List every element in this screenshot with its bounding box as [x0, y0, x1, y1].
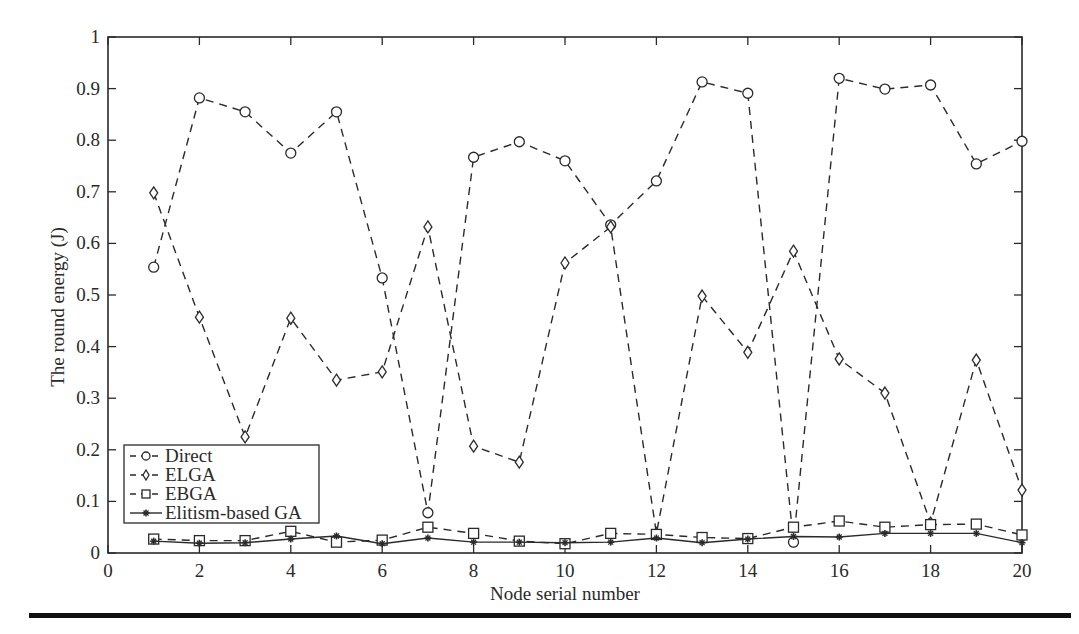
- legend: DirectELGAEBGAElitism-based GA: [124, 445, 319, 523]
- circle-marker-icon: [423, 508, 433, 518]
- y-tick-label: 1: [91, 26, 101, 47]
- star-marker-icon: [562, 539, 569, 546]
- star-marker-icon: [836, 534, 843, 541]
- star-marker-icon: [242, 539, 249, 546]
- diamond-marker-icon: [515, 456, 523, 468]
- square-marker-icon: [926, 520, 936, 530]
- circle-marker-icon: [514, 137, 524, 147]
- figure-bottom-rule: [29, 613, 1071, 618]
- x-tick-label: 0: [103, 560, 113, 581]
- star-marker-icon: [927, 530, 934, 537]
- circle-marker-icon: [377, 273, 387, 283]
- diamond-marker-icon: [378, 366, 386, 378]
- y-axis-label: The round energy (J): [47, 227, 69, 387]
- y-tick-label: 0.4: [76, 336, 100, 357]
- x-tick-label: 20: [1013, 560, 1032, 581]
- circle-marker-icon: [149, 262, 159, 272]
- diamond-marker-icon: [424, 221, 432, 233]
- x-tick-label: 12: [647, 560, 666, 581]
- x-tick-label: 4: [286, 560, 296, 581]
- diamond-marker-icon: [195, 311, 203, 323]
- star-marker-icon: [516, 539, 523, 546]
- diamond-marker-icon: [150, 187, 158, 199]
- star-marker-icon: [973, 530, 980, 537]
- circle-marker-icon: [332, 107, 342, 117]
- y-tick-label: 0.3: [76, 387, 100, 408]
- x-tick-label: 18: [921, 560, 940, 581]
- circle-marker-icon: [469, 152, 479, 162]
- diamond-marker-icon: [790, 245, 798, 257]
- legend-label: Elitism-based GA: [165, 502, 302, 523]
- circle-marker-icon: [560, 156, 570, 166]
- x-tick-label: 2: [195, 560, 205, 581]
- circle-marker-icon: [926, 80, 936, 90]
- square-marker-icon: [469, 528, 479, 538]
- star-marker-icon: [196, 540, 203, 547]
- star-marker-icon: [143, 510, 150, 517]
- circle-marker-icon: [286, 148, 296, 158]
- x-tick-label: 16: [830, 560, 849, 581]
- diamond-marker-icon: [333, 374, 341, 386]
- square-marker-icon: [1017, 530, 1027, 540]
- diamond-marker-icon: [1018, 484, 1026, 496]
- diamond-marker-icon: [744, 346, 752, 358]
- diamond-marker-icon: [241, 431, 249, 443]
- circle-marker-icon: [971, 159, 981, 169]
- y-tick-label: 0.1: [76, 490, 100, 511]
- y-tick-label: 0.6: [76, 232, 100, 253]
- y-tick-label: 0.8: [76, 129, 100, 150]
- circle-marker-icon: [240, 107, 250, 117]
- circle-marker-icon: [834, 73, 844, 83]
- y-tick-label: 0.5: [76, 284, 100, 305]
- legend-label: EBGA: [165, 483, 217, 504]
- square-marker-icon: [142, 490, 150, 498]
- x-tick-label: 14: [738, 560, 758, 581]
- circle-marker-icon: [651, 176, 661, 186]
- diamond-marker-icon: [835, 353, 843, 365]
- y-tick-label: 0: [91, 542, 101, 563]
- line-chart: 02468101214161820 00.10.20.30.40.50.60.7…: [0, 0, 1079, 634]
- square-marker-icon: [834, 516, 844, 526]
- x-tick-label: 10: [556, 560, 575, 581]
- square-marker-icon: [789, 522, 799, 532]
- x-tick-label: 8: [469, 560, 479, 581]
- star-marker-icon: [1019, 539, 1026, 546]
- x-axis-label: Node serial number: [490, 583, 641, 604]
- legend-label: Direct: [165, 445, 213, 466]
- circle-marker-icon: [743, 88, 753, 98]
- circle-marker-icon: [1017, 136, 1027, 146]
- diamond-marker-icon: [470, 440, 478, 452]
- square-marker-icon: [971, 519, 981, 529]
- y-tick-label: 0.2: [76, 439, 100, 460]
- star-marker-icon: [470, 539, 477, 546]
- star-marker-icon: [424, 535, 431, 542]
- square-marker-icon: [423, 522, 433, 532]
- circle-marker-icon: [880, 84, 890, 94]
- star-marker-icon: [790, 533, 797, 540]
- star-marker-icon: [607, 539, 614, 546]
- diamond-marker-icon: [972, 354, 980, 366]
- diamond-marker-icon: [881, 387, 889, 399]
- y-tick-label: 0.9: [76, 78, 100, 99]
- y-tick-label: 0.7: [76, 181, 100, 202]
- diamond-marker-icon: [561, 257, 569, 269]
- legend-label: ELGA: [165, 464, 216, 485]
- x-tick-label: 6: [377, 560, 387, 581]
- star-marker-icon: [333, 532, 340, 539]
- square-marker-icon: [606, 528, 616, 538]
- circle-marker-icon: [194, 93, 204, 103]
- circle-marker-icon: [697, 77, 707, 87]
- star-marker-icon: [744, 536, 751, 543]
- circle-marker-icon: [142, 452, 150, 460]
- square-marker-icon: [286, 526, 296, 536]
